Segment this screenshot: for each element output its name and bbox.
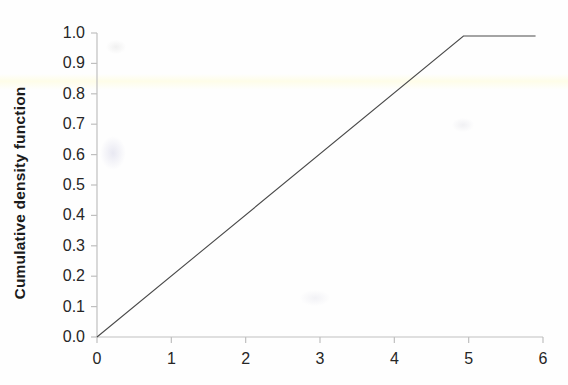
data-series-group bbox=[97, 36, 536, 337]
plot-canvas bbox=[0, 0, 568, 385]
series-line-cdf bbox=[97, 36, 536, 337]
chart-figure: Cumulative density function 0.00.10.20.3… bbox=[0, 0, 568, 385]
axes-group bbox=[91, 33, 543, 343]
